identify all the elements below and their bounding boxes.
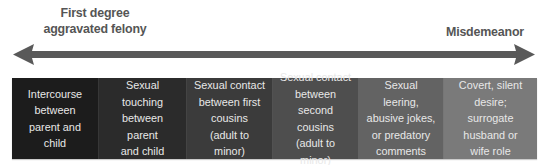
spectrum-box-text: Sexual contactbetween firstcousins(adult…: [193, 77, 266, 160]
spectrum-box-3: Sexual contactbetween firstcousins(adult…: [187, 78, 273, 159]
spectrum-box-text: Sexual leering,abusive jokes,or predator…: [365, 77, 437, 160]
spectrum-box-6: Covert, silentdesire; surrogatehusband o…: [444, 78, 537, 159]
spectrum-box-1: Intercoursebetweenparent and child: [12, 78, 99, 159]
spectrum-box-2: Sexual touchingbetween parentand child: [99, 78, 187, 159]
spectrum-box-text: Sexual contactbetween secondcousins(adul…: [279, 69, 352, 165]
severity-spectrum: Intercoursebetweenparent and child Sexua…: [12, 78, 537, 159]
spectrum-box-text: Intercoursebetweenparent and child: [18, 86, 92, 152]
spectrum-box-text: Sexual touchingbetween parentand child: [105, 77, 180, 160]
spectrum-box-4: Sexual contactbetween secondcousins(adul…: [273, 78, 359, 159]
double-headed-arrow-icon: [0, 0, 547, 80]
spectrum-box-5: Sexual leering,abusive jokes,or predator…: [359, 78, 444, 159]
spectrum-box-text: Covert, silentdesire; surrogatehusband o…: [450, 77, 530, 160]
